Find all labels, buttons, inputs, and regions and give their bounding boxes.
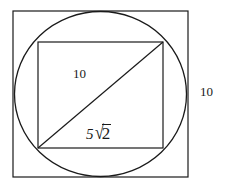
diagonal-length-label: 5√2 xyxy=(86,124,111,142)
radicand-value: 2 xyxy=(102,124,112,142)
inscribed-circle xyxy=(15,12,187,177)
geometry-figure: 10 5√2 10 xyxy=(0,0,225,189)
diagonal-coefficient: 5 xyxy=(86,126,94,142)
radical-group: √2 xyxy=(94,124,112,142)
figure-canvas xyxy=(0,0,225,189)
inner-square-side-label: 10 xyxy=(73,67,86,80)
outer-square-side-label: 10 xyxy=(200,85,213,98)
